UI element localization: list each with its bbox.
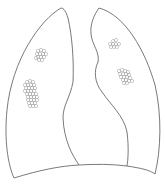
nodule-cluster-right-upper: [34, 48, 47, 61]
diaphragm-line: [79, 164, 127, 166]
nodule-cluster-left-upper: [108, 38, 120, 48]
lung-diagram: [0, 0, 165, 186]
nodule-cluster-right-middle: [23, 79, 38, 107]
nodule-cluster-left-middle: [117, 68, 133, 84]
left-lung-outline: [91, 8, 160, 174]
lung-illustration: [0, 0, 165, 186]
right-lung-outline: [6, 8, 79, 178]
